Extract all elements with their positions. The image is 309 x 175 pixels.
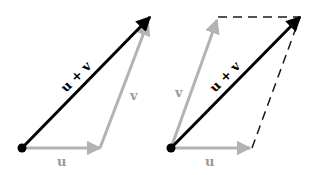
parallelogram-rule-figure: u v u + v — [167, 17, 301, 169]
origin-dot — [167, 144, 176, 153]
v-label: v — [174, 85, 183, 100]
v-vector — [100, 22, 148, 148]
triangle-rule-figure: u v u + v — [18, 17, 151, 169]
sum-label: u + v — [207, 58, 244, 95]
sum-vector — [171, 17, 300, 148]
origin-dot — [18, 144, 27, 153]
v-label: v — [129, 88, 138, 103]
vector-addition-diagram: u v u + v u v u + v — [0, 0, 309, 175]
u-label: u — [205, 154, 214, 169]
dashed-right-edge — [252, 17, 300, 148]
sum-vector — [22, 17, 150, 148]
u-label: u — [57, 154, 66, 169]
sum-label: u + v — [58, 58, 95, 95]
